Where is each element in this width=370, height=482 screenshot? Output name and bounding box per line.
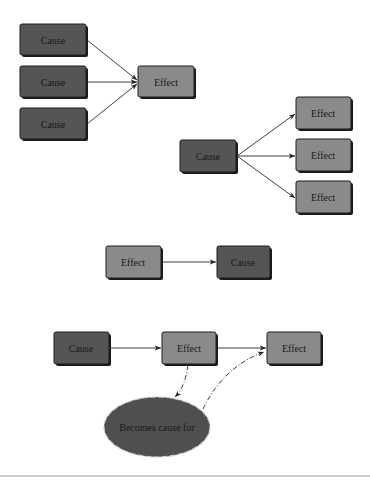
arrow — [87, 40, 137, 80]
cause-label: Cause — [41, 77, 66, 88]
effect-box-1: Effect — [162, 332, 218, 366]
cause-box-2: Cause — [20, 66, 88, 99]
cause-box-1: Cause — [20, 24, 88, 57]
cause-label: Cause — [231, 257, 256, 268]
arrow — [237, 114, 295, 156]
effect-box-2: Effect — [296, 139, 353, 173]
effect-label: Effect — [311, 150, 335, 161]
ellipse-label: Becomes cause for — [119, 422, 195, 433]
cause-box: Cause — [217, 246, 272, 280]
cause-box: Cause — [54, 332, 111, 366]
diagram-effect-to-cause: Effect Cause — [106, 246, 272, 280]
effect-label: Effect — [282, 343, 306, 354]
effect-label: Effect — [311, 192, 335, 203]
diagram-causal-chain: Cause Effect Effect Becomes cause for — [54, 332, 323, 457]
effect-label: Effect — [177, 343, 201, 354]
dashed-arrow-to-ellipse — [175, 365, 188, 397]
diagram-one-cause-many-effects: Cause Effect Effect Effect — [180, 97, 353, 215]
effect-label: Effect — [121, 257, 145, 268]
arrow — [87, 84, 137, 124]
cause-effect-diagrams: Cause Cause Cause Effect Cause — [0, 0, 370, 482]
effect-label: Effect — [154, 77, 178, 88]
effect-box-2: Effect — [267, 332, 323, 366]
cause-label: Cause — [41, 119, 66, 130]
effect-box-3: Effect — [296, 181, 353, 215]
cause-box-3: Cause — [20, 108, 88, 141]
effect-box: Effect — [138, 66, 196, 99]
becomes-cause-for-ellipse: Becomes cause for — [104, 397, 210, 457]
effect-label: Effect — [311, 108, 335, 119]
diagram-many-causes-one-effect: Cause Cause Cause Effect — [20, 24, 196, 141]
cause-label: Cause — [196, 151, 221, 162]
cause-label: Cause — [69, 343, 94, 354]
cause-box: Cause — [180, 140, 238, 174]
arrow — [237, 156, 295, 198]
cause-label: Cause — [41, 35, 66, 46]
effect-box: Effect — [106, 246, 163, 280]
effect-box-1: Effect — [296, 97, 353, 131]
